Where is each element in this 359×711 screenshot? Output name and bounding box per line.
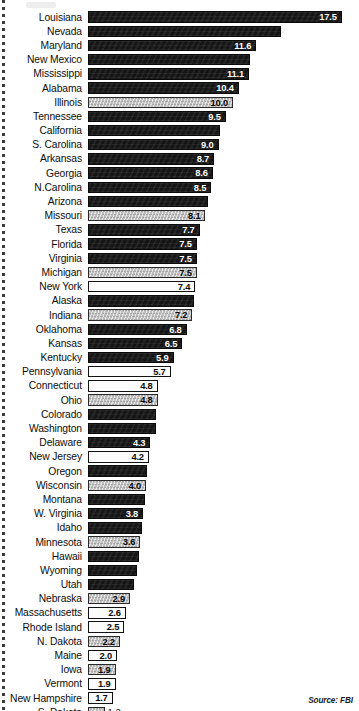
- bar-value-label: 5.9: [156, 353, 172, 362]
- bar-row: Utah: [0, 578, 359, 592]
- bar: 4.0: [88, 480, 146, 491]
- bar-value-label: 7.5: [179, 254, 195, 263]
- bar-track: 7.2: [88, 308, 359, 322]
- bar-row: Kentucky5.9: [0, 351, 359, 365]
- bar-label: Minnesota: [0, 537, 88, 548]
- bar: 2.5: [88, 621, 124, 632]
- bar-label: Texas: [0, 224, 88, 235]
- bar-row: Missouri8.1: [0, 209, 359, 223]
- bar-track: 8.1: [88, 209, 359, 223]
- bar: 7.4: [88, 281, 195, 292]
- bar-row: California: [0, 124, 359, 138]
- bar-label: Washington: [0, 423, 88, 434]
- bar-row: Minnesota3.6: [0, 535, 359, 549]
- bar: [88, 579, 134, 590]
- bar-row: Indiana7.2: [0, 308, 359, 322]
- bar-track: [88, 194, 359, 208]
- bar-row: Massachusetts2.6: [0, 606, 359, 620]
- bar-row: New Mexico: [0, 53, 359, 67]
- bar-value-label: 11.1: [227, 69, 248, 78]
- bar-label: Massachusetts: [0, 607, 88, 618]
- bar-label: Idaho: [0, 522, 88, 533]
- bar: [88, 423, 156, 434]
- bar-value-label: 10.0: [211, 98, 232, 107]
- bar: 4.8: [88, 380, 158, 391]
- bar-value-label: 8.5: [194, 183, 210, 192]
- bar-label: Wisconsin: [0, 480, 88, 491]
- bar-value-label: 4.8: [140, 381, 156, 390]
- bar-track: 4.8: [88, 393, 359, 407]
- bar: 8.1: [88, 210, 205, 221]
- bar-track: 2.0: [88, 648, 359, 662]
- bar: 9.0: [88, 139, 219, 150]
- bar-track: 4.2: [88, 450, 359, 464]
- bar-track: [88, 464, 359, 478]
- bar-row: Montana: [0, 492, 359, 506]
- bar-row: New York7.4: [0, 280, 359, 294]
- bar-value-label: 7.2: [175, 310, 191, 319]
- bar-track: 1.9: [88, 677, 359, 691]
- bar-value-label: 4.0: [129, 481, 145, 490]
- bar-row: Wisconsin4.0: [0, 478, 359, 492]
- bar: 6.8: [88, 324, 187, 335]
- bar-label: Tennessee: [0, 111, 88, 122]
- bar: 10.0: [88, 97, 233, 108]
- bar: 8.5: [88, 182, 211, 193]
- bar-track: [88, 53, 359, 67]
- bar-track: 4.8: [88, 379, 359, 393]
- bar-row: Nebraska2.9: [0, 592, 359, 606]
- bar: [88, 522, 142, 533]
- bar-row: Iowa1.9: [0, 663, 359, 677]
- bar: 7.5: [88, 267, 197, 278]
- bar-track: 11.1: [88, 67, 359, 81]
- bar-label: New Jersey: [0, 451, 88, 462]
- source-note: Source: FBI: [308, 696, 353, 705]
- bar: [88, 551, 139, 562]
- chart-page: Louisiana17.5NevadaMaryland11.6New Mexic…: [0, 0, 359, 711]
- bar-label: California: [0, 125, 88, 136]
- bar: 17.5: [88, 11, 342, 22]
- bar-label: Rhode Island: [0, 622, 88, 633]
- bar-label: Michigan: [0, 267, 88, 278]
- bar-label: Montana: [0, 494, 88, 505]
- bar: 4.3: [88, 437, 150, 448]
- bar-row: Vermont1.9: [0, 677, 359, 691]
- bar-label: Ohio: [0, 395, 88, 406]
- bar-row: S. Dakota1.2: [0, 705, 359, 711]
- bar-label: Iowa: [0, 664, 88, 675]
- bar-row: Kansas6.5: [0, 336, 359, 350]
- bar-value-label: 5.7: [153, 367, 169, 376]
- bar-track: 8.7: [88, 152, 359, 166]
- bar-label: Hawaii: [0, 551, 88, 562]
- bar-value-label: 8.1: [188, 211, 204, 220]
- bar-label: Oregon: [0, 466, 88, 477]
- bar: 3.6: [88, 536, 140, 547]
- bar-row: N.Carolina8.5: [0, 180, 359, 194]
- bar: 4.2: [88, 451, 149, 462]
- bar: [88, 565, 137, 576]
- bar-label: Maine: [0, 650, 88, 661]
- bar-value-label: 2.5: [107, 622, 123, 631]
- bar-track: 11.6: [88, 38, 359, 52]
- bar-value-label: 1.2: [107, 707, 120, 711]
- bar: 4.8: [88, 394, 158, 405]
- bar-label: Florida: [0, 239, 88, 250]
- bar-track: [88, 563, 359, 577]
- bar-track: 7.4: [88, 280, 359, 294]
- bar-value-label: 4.8: [140, 395, 156, 404]
- bar: 7.5: [88, 253, 197, 264]
- bar: 6.5: [88, 338, 182, 349]
- bar-row: Maryland11.6: [0, 38, 359, 52]
- bar: 11.1: [88, 68, 249, 79]
- bar-row: Wyoming: [0, 563, 359, 577]
- bar-track: 3.8: [88, 507, 359, 521]
- bar: [88, 409, 156, 420]
- bar-row: Michigan7.5: [0, 265, 359, 279]
- bar-row: W. Virginia3.8: [0, 507, 359, 521]
- bar-row: Oklahoma6.8: [0, 322, 359, 336]
- bar: 5.9: [88, 352, 174, 363]
- bar-track: 3.6: [88, 535, 359, 549]
- bar: [88, 26, 281, 37]
- bar-track: 7.5: [88, 237, 359, 251]
- bar: 2.2: [88, 636, 120, 647]
